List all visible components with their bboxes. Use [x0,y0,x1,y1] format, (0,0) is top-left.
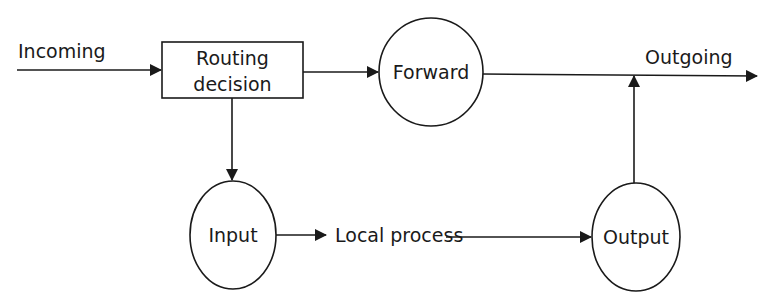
outgoing-label: Outgoing [645,46,733,68]
routing-decision-label-line2: decision [193,73,271,95]
input-label: Input [208,224,257,246]
local-process-label: Local process [335,224,463,246]
incoming-label: Incoming [18,40,106,62]
forward-node: Forward [379,18,483,126]
output-node: Output [592,183,680,291]
forward-label: Forward [393,61,469,83]
routing-decision-label-line1: Routing [196,47,269,69]
output-label: Output [603,226,669,248]
routing-decision-node: Routing decision [162,42,303,98]
outgoing-arrow [483,74,757,76]
incoming-edge: Incoming [17,40,161,70]
input-node: Input [190,181,276,289]
routing-diagram: Incoming Routing decision Forward Outgoi… [0,0,771,305]
